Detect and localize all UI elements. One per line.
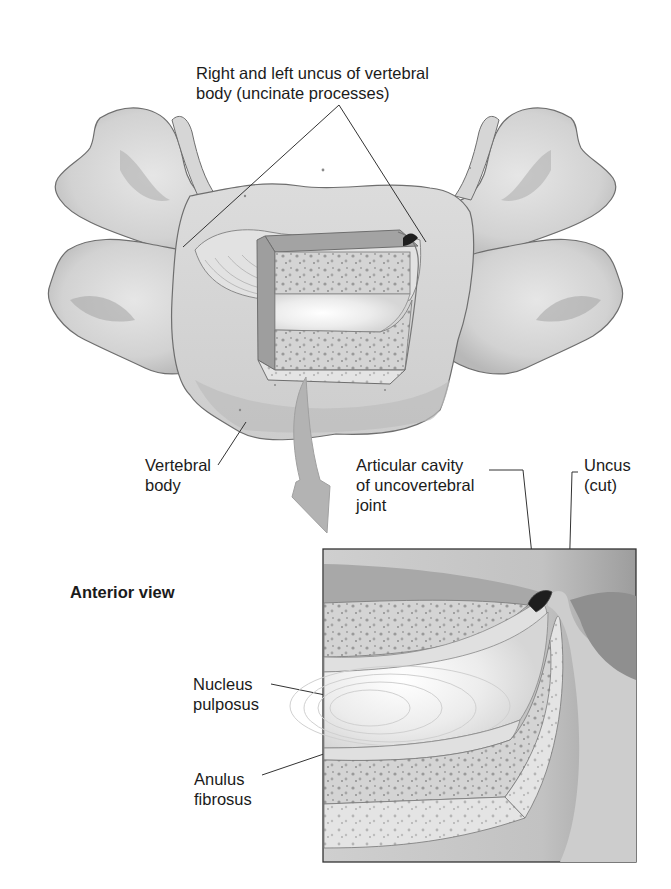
label-anulus-fibrosus-line2: fibrosus — [194, 790, 252, 808]
vertebra-illustration: Right and left uncus of vertebral body (… — [0, 0, 671, 889]
inset-magnified-view — [290, 549, 636, 862]
label-uncus-pair-line2: body (uncinate processes) — [196, 84, 390, 102]
leader-vertebral-body — [218, 422, 246, 465]
label-vertebral-body-line2: body — [145, 476, 182, 494]
cutaway-block — [257, 230, 418, 384]
label-articular-cavity-line3: joint — [355, 496, 387, 514]
label-articular-cavity-line1: Articular cavity — [356, 456, 464, 474]
label-anterior-view: Anterior view — [70, 583, 175, 601]
label-vertebral-body-line1: Vertebral — [145, 456, 211, 474]
label-articular-cavity-line2: of uncovertebral — [356, 476, 474, 494]
label-uncus-cut-line2: (cut) — [584, 476, 617, 494]
label-nucleus-pulposus-line2: pulposus — [193, 695, 259, 713]
right-lower-transverse-process — [451, 239, 623, 374]
label-uncus-cut-line1: Uncus — [584, 456, 631, 474]
label-uncus-pair-line1: Right and left uncus of vertebral — [196, 64, 429, 82]
label-nucleus-pulposus-line1: Nucleus — [193, 675, 253, 693]
label-anulus-fibrosus-line1: Anulus — [194, 770, 244, 788]
cutaway-left-face — [257, 236, 275, 370]
cutaway-upper-bone — [275, 252, 410, 294]
figure-stage: Right and left uncus of vertebral body (… — [0, 0, 671, 889]
vertebra-anterior — [48, 108, 622, 440]
